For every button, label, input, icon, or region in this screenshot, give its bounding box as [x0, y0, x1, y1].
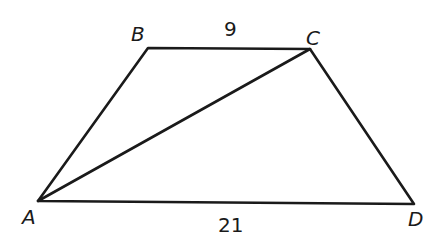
- vertex-label-a: A: [20, 205, 36, 229]
- length-label-ad: 21: [218, 213, 243, 237]
- trapezoid-diagram: B 9 C A 21 D: [0, 0, 445, 243]
- diagonal-ac: [38, 49, 310, 201]
- vertex-label-c: C: [306, 26, 320, 50]
- length-label-bc: 9: [224, 17, 237, 41]
- vertex-label-d: D: [408, 207, 423, 231]
- vertex-label-b: B: [131, 22, 145, 46]
- trapezoid-outline: [38, 48, 414, 204]
